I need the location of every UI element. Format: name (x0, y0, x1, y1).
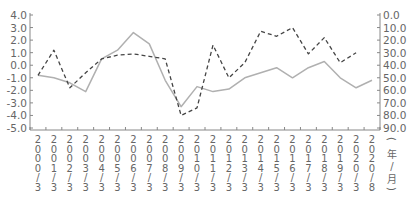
right-axis-tick-label: 80.0 (383, 109, 406, 121)
right-axis-tick-label: 70.0 (383, 97, 406, 109)
right-axis-tick-label: 60.0 (383, 84, 406, 96)
unit-label-part: / (390, 161, 394, 172)
x-axis-category-label: 3 (194, 182, 200, 193)
x-axis-category-label: 3 (273, 182, 279, 193)
right-axis-tick-label: 90.0 (383, 122, 406, 134)
x-axis-category-label: 3 (114, 182, 120, 193)
left-axis-tick-label: 0.0 (10, 59, 27, 71)
x-axis-category-label: 3 (178, 182, 184, 193)
x-axis-category-label: 3 (210, 182, 216, 193)
x-axis-category-label: 3 (257, 182, 263, 193)
x-axis-category-label: 3 (67, 182, 73, 193)
right-axis-tick-label: 20.0 (383, 34, 406, 46)
left-axis-tick-label: -2.0 (7, 84, 28, 96)
x-axis-category-label: 3 (35, 182, 41, 193)
x-axis-unit-label: (年/月) (386, 137, 397, 191)
left-axis-tick-label: -5.0 (7, 122, 28, 134)
unit-label-part: 年 (387, 148, 397, 160)
x-axis-category-label: 3 (130, 182, 136, 193)
right-axis-tick-label: 50.0 (383, 72, 406, 84)
x-axis-category-label: 3 (242, 182, 248, 193)
left-y-axis: 4.03.02.01.00.0-1.0-2.0-3.0-4.0-5.0 (7, 9, 34, 134)
series-dashed-line (38, 28, 356, 116)
series-layer (38, 28, 372, 116)
left-axis-tick-label: -4.0 (7, 109, 28, 121)
left-axis-tick-label: 4.0 (10, 9, 27, 21)
x-axis-category-label: 3 (337, 182, 343, 193)
left-axis-tick-label: 2.0 (10, 34, 27, 46)
x-axis-category-label: 3 (226, 182, 232, 193)
x-axis-category-label: 3 (321, 182, 327, 193)
right-axis-tick-label: 0.0 (383, 9, 400, 21)
x-axis: 2000/32001/32002/32003/32004/32005/32006… (30, 127, 380, 193)
x-axis-category-label: 3 (98, 182, 104, 193)
left-axis-tick-label: 3.0 (10, 22, 27, 34)
series-solid-line (38, 33, 372, 107)
x-axis-category-label: 3 (162, 182, 168, 193)
unit-label-part: 月 (387, 174, 397, 185)
left-axis-tick-label: -3.0 (7, 97, 28, 109)
right-y-axis: 0.010.020.030.040.050.060.070.080.090.0 (377, 9, 406, 134)
x-axis-category-label: 3 (305, 182, 311, 193)
x-axis-category-label: 3 (146, 182, 152, 193)
dual-axis-line-chart: 4.03.02.01.00.0-1.0-2.0-3.0-4.0-5.0 0.01… (0, 0, 408, 197)
unit-label-part: ( (386, 137, 397, 141)
left-axis-tick-label: 1.0 (10, 47, 27, 59)
x-axis-category-label: 3 (289, 182, 295, 193)
x-axis-category-label: 8 (369, 182, 375, 193)
unit-label-part: ) (386, 187, 397, 191)
right-axis-tick-label: 30.0 (383, 47, 406, 59)
right-axis-tick-label: 40.0 (383, 59, 406, 71)
x-axis-category-label: 3 (353, 182, 359, 193)
x-axis-category-label: 3 (51, 182, 57, 193)
x-axis-category-label: 3 (82, 182, 88, 193)
left-axis-tick-label: -1.0 (7, 72, 28, 84)
right-axis-tick-label: 10.0 (383, 22, 406, 34)
